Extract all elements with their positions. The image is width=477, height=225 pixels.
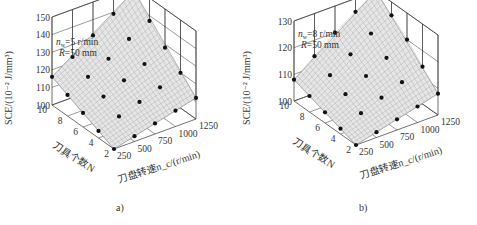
svg-text:140: 140: [36, 30, 51, 40]
z-axis-ticks: 100110120130: [278, 17, 293, 107]
svg-text:R=50 mm: R=50 mm: [300, 40, 339, 50]
svg-text:1000: 1000: [421, 125, 440, 135]
parameter-annotation: nw=5 r/minR=50 mm: [56, 37, 98, 58]
chart-panel-b: 10011012013024681025050075010001250SCE/(…: [238, 0, 476, 225]
svg-text:2: 2: [346, 145, 351, 155]
parameter-annotation: nw=8 r/minR=50 mm: [298, 29, 340, 50]
svg-text:4: 4: [89, 138, 94, 148]
svg-text:750: 750: [158, 136, 173, 146]
z-axis-title: SCE/(10⁻² J/mm³): [3, 51, 15, 125]
plot-area: 1001101201301401502468102505007501000125…: [3, 0, 218, 186]
svg-text:250: 250: [359, 147, 374, 157]
svg-text:110: 110: [36, 83, 50, 93]
svg-text:1250: 1250: [441, 117, 460, 127]
panel-caption-a: a): [116, 202, 124, 213]
svg-text:2: 2: [104, 149, 109, 159]
svg-text:130: 130: [36, 48, 51, 58]
svg-text:1250: 1250: [199, 121, 218, 131]
svg-text:120: 120: [278, 43, 293, 53]
svg-text:R=50 mm: R=50 mm: [58, 48, 97, 58]
plot-area: 10011012013024681025050075010001250SCE/(…: [241, 0, 460, 182]
svg-text:nw=8 r/min: nw=8 r/min: [298, 29, 340, 40]
svg-text:750: 750: [400, 132, 415, 142]
panel-caption-b: b): [359, 202, 367, 213]
svg-text:500: 500: [138, 144, 153, 154]
svg-text:10: 10: [38, 105, 48, 115]
svg-text:130: 130: [278, 17, 293, 27]
z-axis-title: SCE/(10⁻² J/mm³): [241, 51, 253, 125]
svg-text:1000: 1000: [179, 129, 198, 139]
svg-text:4: 4: [331, 134, 336, 144]
svg-text:nw=5 r/min: nw=5 r/min: [56, 37, 98, 48]
svg-text:6: 6: [315, 123, 320, 133]
z-axis-ticks: 100110120130140150: [36, 13, 51, 111]
svg-text:150: 150: [36, 13, 51, 23]
svg-text:8: 8: [300, 112, 305, 122]
svg-text:6: 6: [73, 127, 78, 137]
surface-plot-a: 1001101201301401502468102505007501000125…: [0, 0, 238, 200]
svg-text:110: 110: [278, 70, 292, 80]
svg-text:8: 8: [58, 116, 63, 126]
surface-plot-b: 10011012013024681025050075010001250SCE/(…: [238, 0, 476, 200]
svg-text:10: 10: [280, 101, 290, 111]
svg-text:120: 120: [36, 65, 51, 75]
svg-text:250: 250: [117, 151, 132, 161]
svg-text:500: 500: [380, 140, 395, 150]
chart-panel-a: 1001101201301401502468102505007501000125…: [0, 0, 238, 225]
